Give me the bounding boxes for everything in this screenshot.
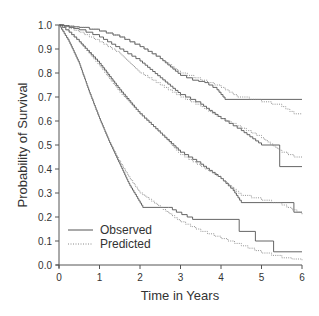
y-tick-label: 0.2 <box>38 212 52 223</box>
x-tick-label: 4 <box>218 272 224 283</box>
predicted-curve-group-3 <box>59 25 302 215</box>
observed-curve-group-3 <box>59 25 302 212</box>
x-tick-label: 3 <box>178 272 184 283</box>
y-tick-label: 1.0 <box>38 20 52 31</box>
y-tick-label: 0.3 <box>38 188 52 199</box>
y-tick-label: 0.4 <box>38 164 52 175</box>
observed-curve-group-1 <box>59 25 302 99</box>
x-tick-label: 2 <box>137 272 143 283</box>
y-axis-title: Probability of Survival <box>15 82 30 207</box>
survival-chart: 0.00.10.20.30.40.50.60.70.80.91.00123456… <box>0 0 319 316</box>
y-tick-label: 0.6 <box>38 116 52 127</box>
y-tick-label: 0.9 <box>38 44 52 55</box>
predicted-curve-group-2 <box>59 25 302 157</box>
x-tick-label: 1 <box>97 272 103 283</box>
legend: Observed Predicted <box>68 223 152 251</box>
y-tick-label: 0.5 <box>38 140 52 151</box>
predicted-curve-group-4 <box>59 25 302 260</box>
y-tick-label: 0.8 <box>38 68 52 79</box>
y-tick-label: 0.1 <box>38 236 52 247</box>
legend-predicted-label: Predicted <box>100 237 151 251</box>
x-tick-label: 0 <box>56 272 62 283</box>
y-tick-label: 0.0 <box>38 260 52 271</box>
legend-observed-label: Observed <box>100 223 152 237</box>
predicted-curve-group-1 <box>59 25 302 114</box>
x-axis-title: Time in Years <box>141 288 220 303</box>
survival-curves <box>59 25 302 260</box>
y-tick-label: 0.7 <box>38 92 52 103</box>
x-tick-label: 6 <box>299 272 305 283</box>
x-tick-label: 5 <box>259 272 265 283</box>
